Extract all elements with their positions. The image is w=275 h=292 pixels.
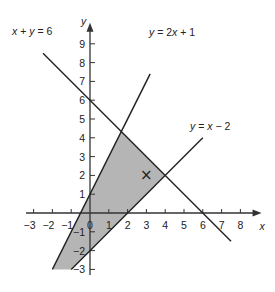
label-x-plus-y-eq-6: x + y = 6 xyxy=(11,25,52,37)
y-tick-label: 6 xyxy=(79,94,85,106)
y-axis-arrow-icon xyxy=(87,23,94,32)
x-tick-label: 3 xyxy=(143,219,149,231)
label-y-eq-2x-plus-1: y = 2x + 1 xyxy=(148,26,195,38)
y-tick-label: 5 xyxy=(79,113,85,125)
y-tick-label: 1 xyxy=(79,188,85,200)
y-tick-label: −2 xyxy=(73,245,85,257)
x-tick-label: 8 xyxy=(237,219,243,231)
x-tick-label: 4 xyxy=(162,219,168,231)
y-tick-label: 7 xyxy=(79,75,85,87)
x-tick-label: 0 xyxy=(87,219,93,231)
y-tick-label: −1 xyxy=(73,226,85,238)
y-tick-label: 8 xyxy=(79,57,85,69)
y-tick-label: 2 xyxy=(79,169,85,181)
x-tick-label: −2 xyxy=(42,219,54,231)
shaded-region xyxy=(52,132,165,270)
x-axis-label: x xyxy=(259,220,266,232)
y-tick-label: 4 xyxy=(79,132,85,144)
x-tick-label: 5 xyxy=(181,219,187,231)
x-tick-label: 2 xyxy=(125,219,131,231)
inequality-graph: −3−2−1012345678−3−2−1123456789xyx + y = … xyxy=(0,0,275,292)
y-tick-label: 3 xyxy=(79,151,85,163)
x-axis-arrow-icon xyxy=(253,210,262,217)
x-tick-label: 6 xyxy=(200,219,206,231)
x-tick-label: −3 xyxy=(24,219,36,231)
y-tick-label: 9 xyxy=(79,38,85,50)
y-axis-label: y xyxy=(80,15,87,27)
point-marker-icon: × xyxy=(140,166,153,184)
label-y-eq-x-minus-2: y = x − 2 xyxy=(189,120,230,132)
x-tick-label: −1 xyxy=(61,219,73,231)
